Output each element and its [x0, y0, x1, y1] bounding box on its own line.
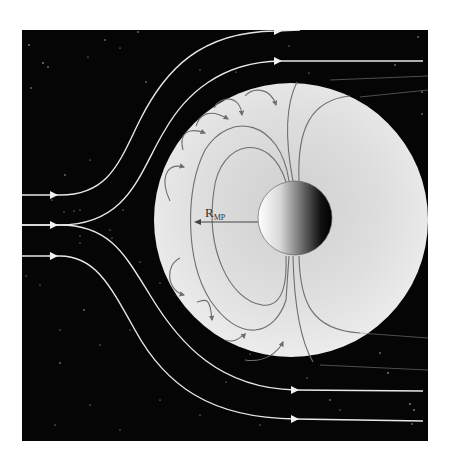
- planet: [258, 181, 332, 255]
- magnetosphere-diagram: RMP: [0, 0, 449, 467]
